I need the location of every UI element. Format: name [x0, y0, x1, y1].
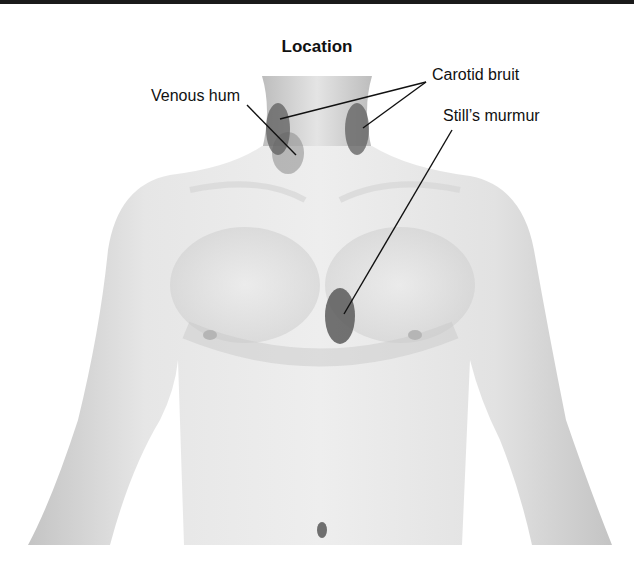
- diagram-title: Location: [0, 37, 634, 57]
- stills-murmur-marker: [325, 288, 355, 344]
- label-stills-murmur: Still’s murmur: [443, 107, 540, 125]
- carotid-left-marker: [345, 103, 369, 155]
- label-carotid-bruit: Carotid bruit: [432, 66, 519, 84]
- right-nipple: [408, 330, 422, 340]
- label-venous-hum: Venous hum: [151, 87, 240, 105]
- carotid-bruit-leader-left: [363, 82, 426, 128]
- left-nipple: [203, 330, 217, 340]
- navel: [317, 522, 327, 538]
- torso: [28, 146, 612, 545]
- diagram-stage: Location Venous hum Carotid bruit Still’…: [0, 0, 634, 581]
- torso-illustration: [0, 0, 634, 581]
